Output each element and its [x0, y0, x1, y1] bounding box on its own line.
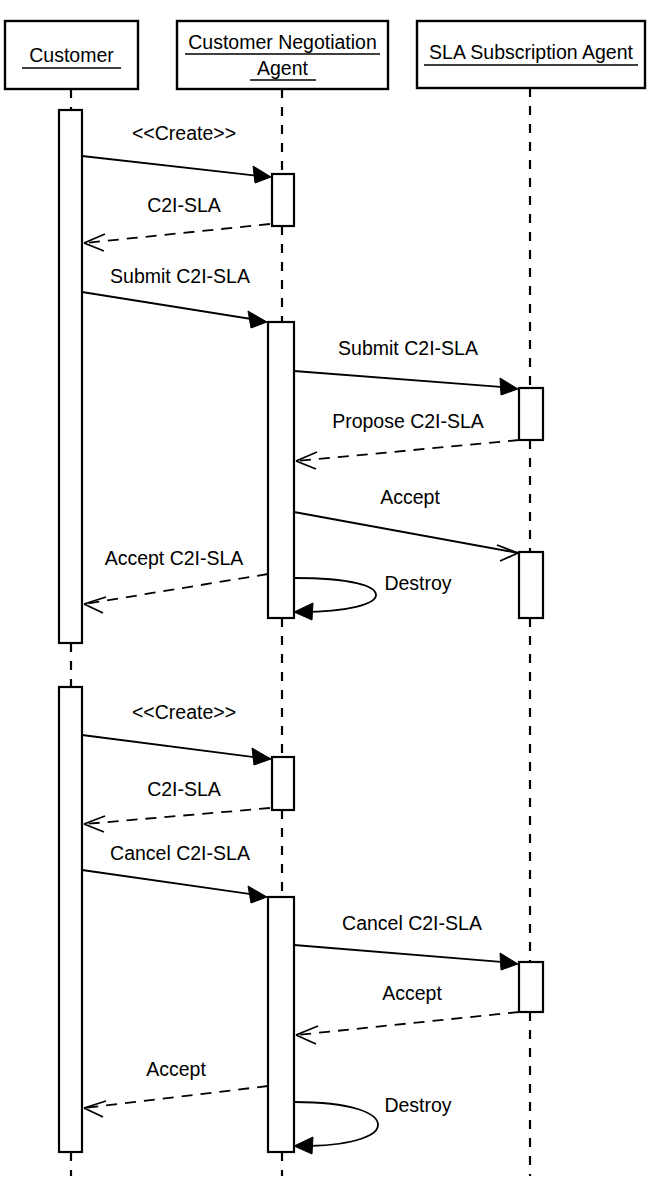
message-accept-3[interactable]: Accept [84, 1058, 268, 1117]
message-destroy-2[interactable]: Destroy [294, 1094, 452, 1154]
message-submit-c2i-sla-2[interactable]: Submit C2I-SLA [294, 337, 518, 395]
message-label-c2i-sla-1: C2I-SLA [147, 194, 221, 216]
message-line-c2i-sla-2 [85, 808, 270, 824]
arrowhead-filled-cancel-c2i-sla-1 [248, 886, 267, 903]
message-line-create-1 [82, 156, 268, 177]
participant-label-customer: Customer [29, 44, 114, 66]
message-label-accept-3: Accept [146, 1058, 206, 1080]
message-cancel-c2i-sla-2[interactable]: Cancel C2I-SLA [294, 912, 518, 970]
participant-customer-negotiation-agent[interactable]: Customer Negotiation Agent [177, 21, 388, 89]
arrowhead-filled-submit-c2i-sla-1 [248, 311, 267, 328]
message-line-cancel-c2i-sla-2 [294, 945, 515, 963]
message-create-1[interactable]: <<Create>> [82, 122, 271, 183]
arrowhead-open-accept-3 [84, 1101, 106, 1117]
message-label-cancel-c2i-sla-2: Cancel C2I-SLA [342, 912, 482, 934]
activation-bar-customer-2 [59, 687, 82, 1152]
participant-customer[interactable]: Customer [5, 21, 138, 89]
activation-bar-sla-1b [519, 552, 543, 618]
activation-bar-agent-2b [268, 897, 294, 1152]
participant-label-sla-subscription-agent: SLA Subscription Agent [429, 41, 633, 63]
message-label-accept-2: Accept [382, 982, 442, 1004]
message-label-destroy-1: Destroy [384, 572, 451, 594]
activation-bar-customer-1 [59, 110, 82, 643]
arrowhead-filled-cancel-c2i-sla-2 [500, 953, 518, 970]
message-c2i-sla-2[interactable]: C2I-SLA [84, 778, 270, 832]
message-label-destroy-2: Destroy [384, 1094, 451, 1116]
message-create-2[interactable]: <<Create>> [82, 701, 271, 765]
arrowhead-open-accept-2 [296, 1026, 318, 1044]
arrowhead-filled-create-1 [253, 166, 271, 183]
arrowhead-filled-create-2 [252, 748, 271, 765]
arrowhead-filled-destroy-1 [294, 603, 313, 620]
message-line-accept-2 [297, 1012, 519, 1035]
message-line-cancel-c2i-sla-1 [82, 870, 264, 896]
message-label-c2i-sla-2: C2I-SLA [147, 778, 221, 800]
message-label-create-2: <<Create>> [132, 701, 236, 723]
message-destroy-1[interactable]: Destroy [294, 572, 452, 620]
message-propose-c2i-sla[interactable]: Propose C2I-SLA [296, 410, 519, 469]
participant-sla-subscription-agent[interactable]: SLA Subscription Agent [417, 21, 645, 88]
activation-bar-sla-1a [519, 388, 543, 440]
lifeline-lines [71, 88, 530, 1176]
activation-bar-agent-1b [268, 322, 294, 618]
message-line-c2i-sla-1 [85, 224, 270, 243]
message-line-destroy-2 [294, 1102, 378, 1146]
message-c2i-sla-1[interactable]: C2I-SLA [84, 194, 270, 251]
message-line-submit-c2i-sla-1 [82, 292, 264, 321]
participant-label-agent-line1: Customer Negotiation [188, 31, 377, 53]
activation-bar-agent-1a [272, 174, 294, 226]
activation-bar-sla-2a [519, 962, 543, 1012]
message-accept-1[interactable]: Accept [294, 486, 518, 561]
message-line-create-2 [82, 735, 268, 759]
arrowhead-filled-destroy-2 [294, 1137, 313, 1154]
arrowhead-open-accept-c2i-sla [84, 597, 106, 613]
message-accept-c2i-sla[interactable]: Accept C2I-SLA [84, 547, 268, 613]
message-line-submit-c2i-sla-2 [294, 371, 515, 388]
message-label-submit-c2i-sla-1: Submit C2I-SLA [110, 265, 250, 287]
message-line-accept-3 [85, 1086, 268, 1108]
message-label-propose-c2i-sla: Propose C2I-SLA [332, 410, 484, 432]
message-line-propose-c2i-sla [297, 440, 519, 461]
message-submit-c2i-sla-1[interactable]: Submit C2I-SLA [82, 265, 267, 328]
message-label-cancel-c2i-sla-1: Cancel C2I-SLA [110, 842, 250, 864]
participant-label-agent-line2: Agent [257, 57, 309, 79]
sequence-diagram-canvas: Customer Customer Negotiation Agent SLA … [0, 0, 656, 1182]
message-label-submit-c2i-sla-2: Submit C2I-SLA [338, 337, 478, 359]
message-label-accept-1: Accept [380, 486, 440, 508]
message-line-accept-c2i-sla [85, 574, 268, 604]
message-accept-2[interactable]: Accept [296, 982, 519, 1044]
message-label-accept-c2i-sla: Accept C2I-SLA [105, 547, 244, 569]
message-line-accept-1 [294, 512, 518, 553]
sequence-diagram-svg: Customer Customer Negotiation Agent SLA … [0, 0, 656, 1182]
arrowhead-filled-submit-c2i-sla-2 [500, 378, 518, 395]
message-label-create-1: <<Create>> [132, 122, 236, 144]
activation-bar-agent-2a [272, 757, 294, 810]
message-cancel-c2i-sla-1[interactable]: Cancel C2I-SLA [82, 842, 267, 903]
